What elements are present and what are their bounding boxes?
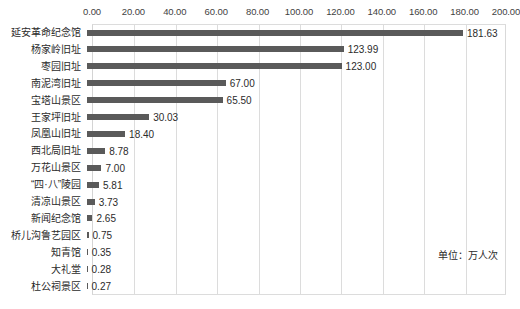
bar-zone: 123.00 xyxy=(86,58,518,75)
chart-row: 大礼堂0.28 xyxy=(0,261,518,278)
bar-zone: 0.28 xyxy=(86,261,518,278)
category-label: 西北局旧址 xyxy=(0,142,86,159)
bar[interactable] xyxy=(87,114,149,120)
bar-value-label: 7.00 xyxy=(105,162,124,173)
bar-value-label: 0.28 xyxy=(92,264,111,275)
x-axis-tick-180: 180.00 xyxy=(450,6,478,17)
bar-zone: 0.75 xyxy=(86,227,518,244)
bar-value-label: 8.78 xyxy=(109,145,128,156)
chart-row: 桥儿沟鲁艺园区0.75 xyxy=(0,227,518,244)
bar[interactable] xyxy=(87,232,89,238)
bar[interactable] xyxy=(87,165,101,171)
category-label: 大礼堂 xyxy=(0,261,86,278)
category-label: 万花山景区 xyxy=(0,159,86,176)
bar-zone: 181.63 xyxy=(86,24,518,41)
x-axis-tick-200: 200.00 xyxy=(492,6,520,17)
chart-row: “四·八”陵园5.81 xyxy=(0,176,518,193)
bar-value-label: 0.27 xyxy=(92,281,111,292)
chart-row: 宝塔山景区65.50 xyxy=(0,92,518,109)
bar-value-label: 5.81 xyxy=(103,179,122,190)
category-label: 桥儿沟鲁艺园区 xyxy=(0,227,86,244)
bar-zone: 67.00 xyxy=(86,75,518,92)
chart-row: 新闻纪念馆2.65 xyxy=(0,210,518,227)
chart-row: 杨家岭旧址123.99 xyxy=(0,41,518,58)
bar[interactable] xyxy=(87,131,125,137)
category-label: 新闻纪念馆 xyxy=(0,210,86,227)
chart-row: 王家坪旧址30.03 xyxy=(0,109,518,126)
bar[interactable] xyxy=(87,182,99,188)
bar-zone: 8.78 xyxy=(86,142,518,159)
category-label: 南泥湾旧址 xyxy=(0,75,86,92)
bar-zone: 2.65 xyxy=(86,210,518,227)
chart-row: 延安革命纪念馆181.63 xyxy=(0,24,518,41)
bar-value-label: 30.03 xyxy=(153,112,178,123)
unit-annotation: 单位：万人次 xyxy=(438,247,498,262)
x-axis-tick-40: 40.00 xyxy=(163,6,186,17)
category-label: 延安革命纪念馆 xyxy=(0,24,86,41)
bar[interactable] xyxy=(87,30,463,36)
bar[interactable] xyxy=(87,249,88,255)
x-axis-tick-120: 120.00 xyxy=(326,6,354,17)
bar-value-label: 123.00 xyxy=(346,61,377,72)
x-axis-tick-80: 80.00 xyxy=(246,6,269,17)
bar[interactable] xyxy=(87,283,88,289)
bar-zone: 123.99 xyxy=(86,41,518,58)
bar-value-label: 123.99 xyxy=(348,44,379,55)
bar-zone: 7.00 xyxy=(86,159,518,176)
chart-row: 清凉山景区3.73 xyxy=(0,193,518,210)
bar-zone: 65.50 xyxy=(86,92,518,109)
chart-row: 万花山景区7.00 xyxy=(0,159,518,176)
category-label: 王家坪旧址 xyxy=(0,109,86,126)
category-label: 杨家岭旧址 xyxy=(0,41,86,58)
x-axis-tick-20: 20.00 xyxy=(122,6,145,17)
category-label: 宝塔山景区 xyxy=(0,92,86,109)
x-axis-tick-100: 100.00 xyxy=(285,6,313,17)
bar-zone: 30.03 xyxy=(86,109,518,126)
x-axis-tick-160: 160.00 xyxy=(409,6,437,17)
bar-value-label: 3.73 xyxy=(99,196,118,207)
bar-value-label: 2.65 xyxy=(96,213,115,224)
category-label: 凤凰山旧址 xyxy=(0,125,86,142)
bar[interactable] xyxy=(87,80,226,86)
bar[interactable] xyxy=(87,46,344,52)
chart-row: 杜公祠景区0.27 xyxy=(0,278,518,295)
x-axis-tick-0: 0.00 xyxy=(83,6,101,17)
category-label: “四·八”陵园 xyxy=(0,176,86,193)
bar-zone: 5.81 xyxy=(86,176,518,193)
bar-zone: 0.27 xyxy=(86,278,518,295)
bar-value-label: 18.40 xyxy=(129,128,154,139)
bar[interactable] xyxy=(87,266,88,272)
bar-value-label: 181.63 xyxy=(467,27,498,38)
bar[interactable] xyxy=(87,63,342,69)
bar-zone: 3.73 xyxy=(86,193,518,210)
category-label: 杜公祠景区 xyxy=(0,278,86,295)
bar[interactable] xyxy=(87,215,92,221)
chart-row: 枣园旧址123.00 xyxy=(0,58,518,75)
bar[interactable] xyxy=(87,199,95,205)
category-label: 清凉山景区 xyxy=(0,193,86,210)
bar-value-label: 65.50 xyxy=(227,95,252,106)
bar-value-label: 0.75 xyxy=(93,230,112,241)
bar-zone: 18.40 xyxy=(86,125,518,142)
bar[interactable] xyxy=(87,148,105,154)
chart-row: 西北局旧址8.78 xyxy=(0,142,518,159)
x-axis-tick-60: 60.00 xyxy=(205,6,228,17)
x-axis-tick-labels: 0.0020.0040.0060.0080.00100.00120.00140.… xyxy=(92,6,506,20)
category-label: 枣园旧址 xyxy=(0,58,86,75)
bar-value-label: 0.35 xyxy=(92,247,111,258)
chart-row: 凤凰山旧址18.40 xyxy=(0,125,518,142)
chart-row: 南泥湾旧址67.00 xyxy=(0,75,518,92)
category-label: 知青馆 xyxy=(0,244,86,261)
bar-value-label: 67.00 xyxy=(230,78,255,89)
x-axis-tick-140: 140.00 xyxy=(368,6,396,17)
bar[interactable] xyxy=(87,97,223,103)
